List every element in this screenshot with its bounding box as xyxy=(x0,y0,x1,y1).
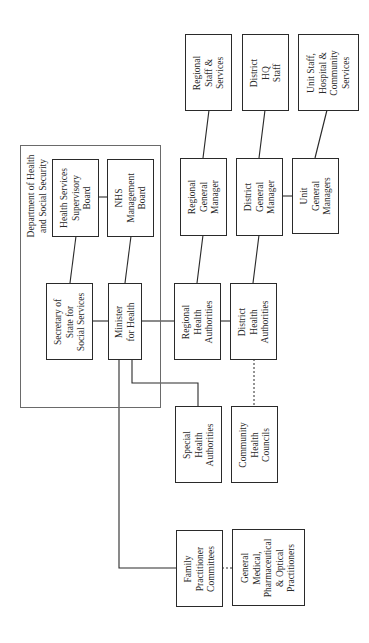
node-district-general-manager: District General Manager xyxy=(236,158,283,236)
node-unit-staff-hospital-community: Unit Staff, Hospital & Community Service… xyxy=(298,34,359,111)
node-regional-health-authorities: Regional Health Authorities xyxy=(174,283,221,360)
node-general-practitioners: General Medical, Pharmaceutical & Optica… xyxy=(232,529,305,606)
edge-dgm-dha xyxy=(253,235,259,283)
edge-rgm-rss xyxy=(203,110,209,158)
node-special-health-authorities: Special Health Authorities xyxy=(175,406,222,483)
edge-ugm-unitstaff xyxy=(315,110,327,158)
node-community-health-councils: Community Health Councils xyxy=(231,406,278,483)
node-minister-for-health: Minister for Health xyxy=(108,283,142,360)
node-regional-staff-services: Regional Staff & Services xyxy=(185,34,232,111)
node-regional-general-manager: Regional General Manager xyxy=(180,158,227,236)
dhss-container-label: Department of Health and Social Security xyxy=(24,146,50,246)
node-nhs-management-board: NHS Management Board xyxy=(107,159,154,237)
node-health-services-supervisory-board: Health Services Supervisory Board xyxy=(52,159,99,237)
edge-dgm-dhq xyxy=(259,110,265,158)
node-district-health-authorities: District Health Authorities xyxy=(230,283,277,360)
node-family-practitioner-committees: Family Practitioner Committees xyxy=(176,530,223,607)
edge-rgm-rha xyxy=(197,235,203,283)
node-district-hq-staff: District HQ Staff xyxy=(242,34,289,111)
node-secretary-of-state: Secretary of State for Social Services xyxy=(46,283,93,360)
node-unit-general-managers: Unit General Managers xyxy=(292,158,339,234)
